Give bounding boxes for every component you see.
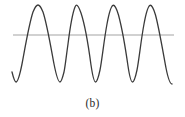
figure-container: (b) [0, 0, 185, 117]
waveform-svg [0, 0, 185, 92]
waveform-plot-area [0, 0, 185, 92]
oscillating-waveform-curve [12, 5, 172, 84]
figure-caption: (b) [0, 96, 185, 110]
